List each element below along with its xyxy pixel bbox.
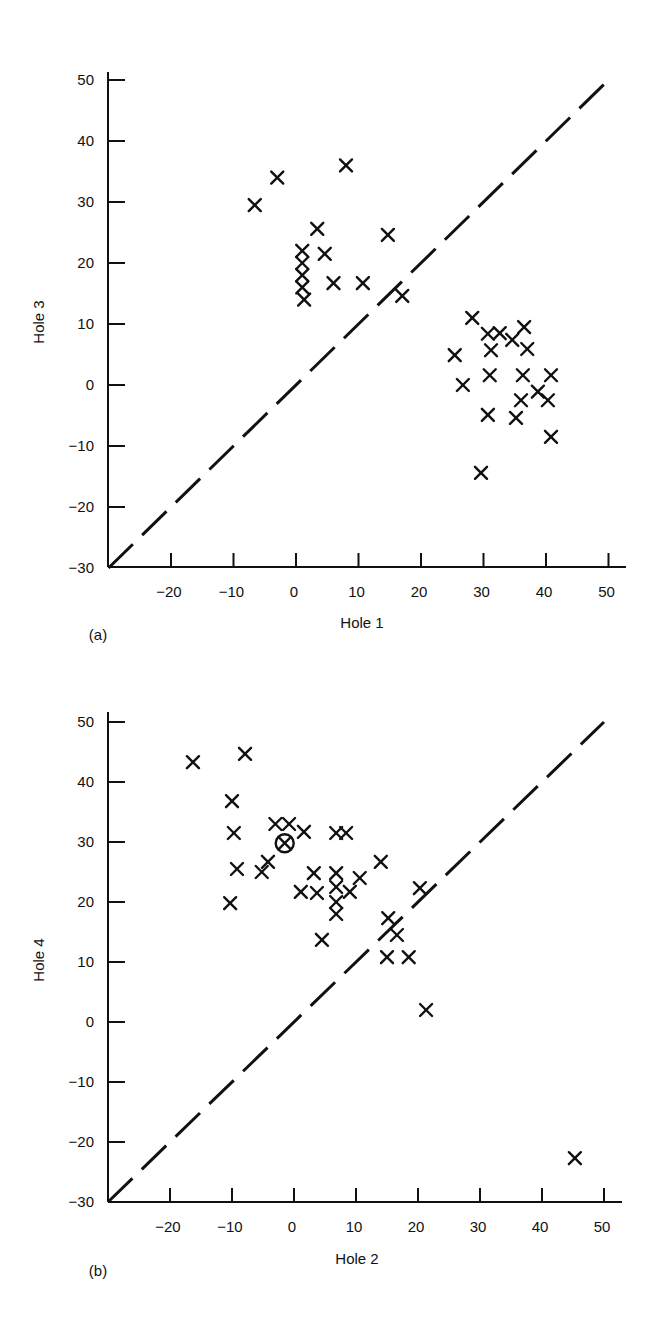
data-point-x-marker <box>228 827 240 839</box>
y-tick-label: 30 <box>77 833 94 850</box>
x-axis-label-b: Hole 2 <box>335 1250 378 1267</box>
data-point-x-marker <box>521 343 533 355</box>
data-point-x-marker <box>249 199 261 211</box>
data-point-x-marker <box>403 951 415 963</box>
data-point-x-marker <box>382 229 394 241</box>
y-axis-label-a: Hole 3 <box>30 300 47 343</box>
y-tick-label: −20 <box>69 498 94 515</box>
x-tick-label: −10 <box>219 583 244 600</box>
x-tick-label: 50 <box>594 1218 611 1235</box>
x-tick-label: 0 <box>288 1218 296 1235</box>
data-point-x-marker <box>316 934 328 946</box>
x-tick-label: 10 <box>346 1218 363 1235</box>
y-tick-label: 10 <box>77 315 94 332</box>
y-tick-label: 10 <box>77 953 94 970</box>
data-point-x-marker <box>484 369 496 381</box>
chart-panel-a: −30−20−1001020304050−20−1001020304050 Ho… <box>0 0 657 660</box>
data-point-x-marker <box>466 312 478 324</box>
x-axis-label-a: Hole 1 <box>340 614 383 631</box>
y-tick-label: 30 <box>77 193 94 210</box>
x-tick-label: 40 <box>532 1218 549 1235</box>
chart-panel-b: −30−20−1001020304050−20−1001020304050 Ho… <box>0 640 657 1335</box>
data-point-x-marker <box>298 826 310 838</box>
x-tick-label: 0 <box>290 583 298 600</box>
data-point-x-marker <box>414 882 426 894</box>
data-point-x-marker <box>375 856 387 868</box>
data-point-x-marker <box>542 394 554 406</box>
data-point-x-marker <box>517 369 529 381</box>
y-tick-label: −10 <box>69 437 94 454</box>
data-point-x-marker <box>295 886 307 898</box>
data-point-x-marker <box>420 1004 432 1016</box>
data-point-x-marker <box>354 872 366 884</box>
data-point-x-marker <box>296 245 308 257</box>
data-point-x-marker <box>457 379 469 391</box>
data-point-x-marker <box>296 269 308 281</box>
data-point-x-marker <box>271 172 283 184</box>
data-point-x-marker <box>276 834 294 852</box>
data-point-x-marker <box>396 290 408 302</box>
data-point-x-marker <box>340 159 352 171</box>
scatter-plot-a: −30−20−1001020304050−20−1001020304050 <box>0 0 657 660</box>
y-tick-label: 40 <box>77 132 94 149</box>
data-point-x-marker <box>482 409 494 421</box>
data-point-x-marker <box>475 467 487 479</box>
y-tick-label: −30 <box>69 1193 94 1210</box>
data-point-x-marker <box>494 327 506 339</box>
data-point-x-marker <box>515 394 527 406</box>
data-point-x-marker <box>311 887 323 899</box>
y-tick-label: −30 <box>69 559 94 576</box>
y-tick-label: −20 <box>69 1133 94 1150</box>
data-point-x-marker <box>330 867 342 879</box>
data-point-x-marker <box>296 281 308 293</box>
data-point-x-marker <box>239 748 251 760</box>
y-tick-label: 0 <box>86 376 94 393</box>
data-point-x-marker <box>231 863 243 875</box>
data-point-x-marker <box>330 896 342 908</box>
identity-dashed-line <box>108 722 604 1202</box>
data-point-x-marker <box>381 951 393 963</box>
data-point-x-marker <box>391 929 403 941</box>
data-point-x-marker <box>283 818 295 830</box>
data-point-x-marker <box>382 912 394 924</box>
identity-dashed-line <box>109 80 609 568</box>
y-tick-label: −10 <box>69 1073 94 1090</box>
panel-label-b: (b) <box>89 1262 107 1279</box>
y-tick-label: 20 <box>77 893 94 910</box>
x-tick-label: −20 <box>155 1218 180 1235</box>
data-point-x-marker <box>357 277 369 289</box>
x-tick-label: 20 <box>411 583 428 600</box>
x-tick-label: 10 <box>348 583 365 600</box>
data-point-x-marker <box>518 321 530 333</box>
data-point-x-marker <box>328 277 340 289</box>
y-tick-label: 50 <box>77 71 94 88</box>
scatter-plot-b: −30−20−1001020304050−20−1001020304050 <box>0 640 657 1335</box>
data-point-x-marker <box>485 344 497 356</box>
y-tick-label: 50 <box>77 713 94 730</box>
data-point-x-marker <box>506 334 518 346</box>
data-point-x-marker <box>482 328 494 340</box>
data-point-x-marker <box>449 349 461 361</box>
x-tick-label: −10 <box>217 1218 242 1235</box>
data-point-x-marker <box>569 1152 581 1164</box>
data-point-x-marker <box>187 756 199 768</box>
data-point-x-marker <box>269 818 281 830</box>
x-tick-label: 20 <box>408 1218 425 1235</box>
x-tick-label: 30 <box>470 1218 487 1235</box>
y-tick-label: 40 <box>77 773 94 790</box>
data-point-x-marker <box>344 886 356 898</box>
y-axis-label-b: Hole 4 <box>30 938 47 981</box>
data-point-x-marker <box>296 257 308 269</box>
y-tick-label: 20 <box>77 254 94 271</box>
y-tick-label: 0 <box>86 1013 94 1030</box>
data-point-x-marker <box>298 294 310 306</box>
data-point-x-marker <box>340 827 352 839</box>
x-tick-label: 50 <box>598 583 615 600</box>
x-tick-label: 40 <box>536 583 553 600</box>
data-point-x-marker <box>330 908 342 920</box>
x-tick-label: 30 <box>473 583 490 600</box>
data-point-x-marker <box>226 795 238 807</box>
data-point-x-marker <box>224 897 236 909</box>
data-point-x-marker <box>311 223 323 235</box>
data-point-x-marker <box>545 431 557 443</box>
